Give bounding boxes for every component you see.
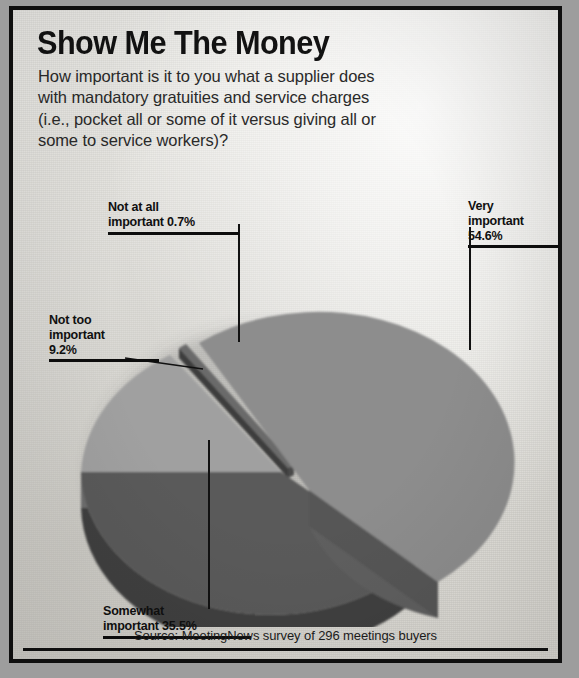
slice-label-not-at-all-line-2: important 0.7% <box>108 215 244 230</box>
slice-label-not-too-rule <box>49 359 159 362</box>
question-line-1: How important is it to you what a suppli… <box>38 66 508 87</box>
chart-frame: Show Me The Money How important is it to… <box>9 6 562 663</box>
page-title: Show Me The Money <box>37 24 483 62</box>
slice-label-not-at-all-important: Not at all important 0.7% <box>108 200 244 235</box>
source-rule <box>23 648 548 651</box>
slice-label-not-too-line-2: important <box>49 328 165 343</box>
slice-label-very-line-1: Very <box>468 199 562 214</box>
question-line-2: with mandatory gratuities and service ch… <box>38 87 508 108</box>
slice-label-somewhat-line-1: Somewhat <box>103 604 255 619</box>
question-line-3: (i.e., pocket all or some of it versus g… <box>38 109 508 130</box>
slice-label-not-too-line-1: Not too <box>49 313 165 328</box>
newspaper-clipping: Show Me The Money How important is it to… <box>0 0 579 678</box>
slice-label-not-too-value: 9.2% <box>49 343 165 358</box>
slice-label-very-rule <box>468 245 560 248</box>
question-text: How important is it to you what a suppli… <box>38 66 508 152</box>
slice-label-not-too-important: Not too important 9.2% <box>49 313 165 362</box>
source-note: Source: MeetingNews survey of 296 meetin… <box>13 628 558 643</box>
slice-label-very-important: Very important 54.6% <box>468 199 562 248</box>
slice-label-not-at-all-line-1: Not at all <box>108 200 244 215</box>
slice-label-very-value: 54.6% <box>468 229 562 244</box>
slice-label-very-line-2: important <box>468 214 562 229</box>
question-line-4: some to service workers)? <box>38 130 508 151</box>
slice-label-not-at-all-rule <box>108 232 239 235</box>
